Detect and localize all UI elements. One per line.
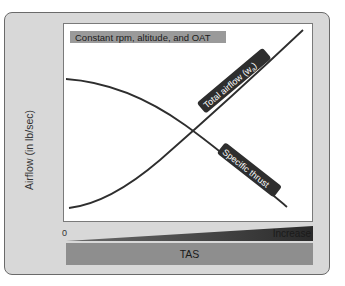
specific-thrust-label: Specific thrust (220, 147, 271, 190)
x-origin-label: 0 (62, 228, 67, 238)
tas-bar: TAS (66, 243, 313, 265)
specific-thrust-curve (66, 79, 287, 207)
condition-label: Constant rpm, altitude, and OAT (75, 32, 211, 43)
specific-thrust-tag: Specific thrust (217, 142, 282, 197)
increase-label: Increase (273, 228, 311, 239)
x-axis-label: TAS (180, 248, 200, 260)
total-airflow-tag: Total airflow (wa) (197, 48, 272, 114)
total-airflow-label: Total airflow (wa) (202, 60, 260, 111)
